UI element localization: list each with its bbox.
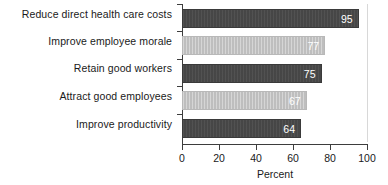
bar-retain-good-workers: 75 <box>182 64 322 83</box>
x-axis-tick-label-5: 100 <box>358 152 376 164</box>
category-label-3: Attract good employees <box>0 90 172 102</box>
category-label-2: Retain good workers <box>0 62 172 74</box>
bar-value-3: 67 <box>289 95 301 106</box>
bar-value-2: 75 <box>304 68 316 79</box>
x-axis-tick-label-1: 20 <box>213 152 225 164</box>
x-axis-tick-label-0: 0 <box>179 152 185 164</box>
x-axis-tick-2 <box>256 145 257 150</box>
category-label-4: Improve productivity <box>0 118 172 130</box>
x-axis-tick-4 <box>330 145 331 150</box>
x-axis-line <box>182 144 368 145</box>
x-axis-tick-label-4: 80 <box>324 152 336 164</box>
x-axis-title: Percent <box>182 168 368 180</box>
x-axis-tick-3 <box>293 145 294 150</box>
plot-area: 95 77 75 67 64 <box>182 4 368 142</box>
bar-value-4: 64 <box>283 123 295 134</box>
bar-value-0: 95 <box>341 13 353 24</box>
bar-chart: Reduce direct health care costs Improve … <box>0 0 388 185</box>
x-axis-tick-1 <box>219 145 220 150</box>
x-axis-tick-label-2: 40 <box>250 152 262 164</box>
x-axis-tick-0 <box>182 145 183 150</box>
bar-attract-good-employees: 67 <box>182 91 307 110</box>
category-label-0: Reduce direct health care costs <box>0 8 172 20</box>
category-axis-labels: Reduce direct health care costs Improve … <box>0 0 178 142</box>
category-label-1: Improve employee morale <box>0 35 172 47</box>
bar-improve-productivity: 64 <box>182 119 301 138</box>
bar-improve-employee-morale: 77 <box>182 36 325 55</box>
bar-value-1: 77 <box>308 40 320 51</box>
x-axis-tick-label-3: 60 <box>287 152 299 164</box>
x-axis-tick-5 <box>367 145 368 150</box>
bar-reduce-direct-health-care-costs: 95 <box>182 9 359 28</box>
